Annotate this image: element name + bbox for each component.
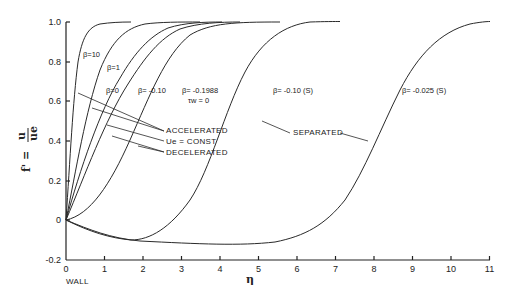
y-tick-label: 0.4 [48,136,61,146]
x-tick-label: 10 [446,264,456,274]
y-tick-label: 0.2 [48,176,61,186]
x-tick-labels: 0 1 2 3 4 5 6 7 8 9 10 11 [63,264,494,274]
x-axis-title: η [246,273,254,286]
x-tick-label: 5 [256,264,261,274]
label-beta-m010-s: β= -0.10 (S) [273,86,313,95]
y-axis-title-ue: ue [27,126,40,141]
label-tau-w: τw = 0 [188,96,209,105]
annotation-separated: SEPARATED [293,128,343,137]
y-tick-label: 0 [56,215,61,225]
x-tick-label: 6 [294,264,299,274]
x-tick-label: 4 [217,264,222,274]
x-tick-label: 2 [140,264,145,274]
y-tick-label: 0.8 [48,57,61,67]
label-beta-m0025-s: β= -0.025 (S) [402,86,447,95]
label-beta-m01988: β= -0.1988 [182,86,218,95]
curve-labels: β=10 β=1 β=0 β= -0.10 β= -0.1988 τw = 0 … [83,50,447,105]
y-tick-label: 1.0 [48,17,61,27]
annotation-ue-const: Ue = CONST [166,137,216,146]
annotation-accelerated: ACCELERATED [166,126,228,135]
label-beta-m010: β= -0.10 [138,86,166,95]
y-tick-label: 0.6 [48,96,61,106]
x-tick-label: 9 [410,264,415,274]
curve-beta-m0025s [66,22,490,245]
label-beta-0: β=0 [106,86,119,95]
x-tick-label: 7 [333,264,338,274]
boundary-layer-profile-chart: 1.0 0.8 0.6 0.4 0.2 0 -0.2 0 1 2 3 4 5 6… [0,0,520,299]
x-tick-label: 3 [179,264,184,274]
annotation-decelerated: DECELERATED [166,148,228,157]
wall-label: WALL [66,277,89,286]
y-axis-title-f: f' = [20,151,33,172]
label-beta-10: β=10 [83,50,100,59]
y-tick-labels: 1.0 0.8 0.6 0.4 0.2 0 -0.2 [45,17,61,265]
label-beta-1: β=1 [107,63,120,72]
curves [66,22,490,245]
y-axis-title: f' = u ue [15,126,40,172]
x-tick-label: 0 [63,264,68,274]
y-tick-label: -0.2 [45,255,61,265]
x-tick-label: 11 [485,264,494,274]
x-tick-label: 1 [102,264,107,274]
x-tick-label: 8 [371,264,376,274]
